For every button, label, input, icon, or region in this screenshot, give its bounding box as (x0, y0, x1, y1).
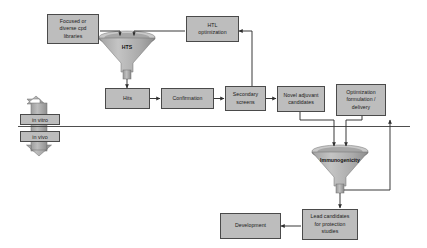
node-optimization-line-2: formulation / (346, 96, 375, 102)
node-optimization-formulation-delivery[interactable]: Optimization formulation / delivery (336, 84, 386, 116)
node-development-label: Development (221, 222, 280, 229)
node-lead-line-1: Lead candidates (311, 213, 350, 219)
flow-connectors (100, 31, 390, 226)
phase-tag-in-vitro: in vitro (20, 114, 60, 125)
immunogenicity-funnel-icon (312, 145, 368, 193)
node-lead-candidates[interactable]: Lead candidates for protection studies (302, 209, 358, 240)
hts-funnel-icon (99, 31, 155, 79)
node-htl-line-2: optimization (198, 29, 226, 35)
phase-tag-in-vivo: in vivo (20, 131, 60, 142)
phase-band-arrow (27, 96, 52, 156)
node-confirmation-label: Confirmation (162, 95, 213, 102)
node-secondary-screens[interactable]: Secondary screens (225, 86, 266, 111)
node-optimization-line-3: delivery (352, 104, 370, 110)
node-libraries-line-3: libraries (64, 33, 83, 39)
node-hits[interactable]: Hits (105, 88, 150, 109)
node-novel-adjuvant-candidates[interactable]: Novel adjuvant candidates (277, 86, 325, 112)
flow-secondary-to-htl (239, 31, 252, 86)
node-development[interactable]: Development (220, 213, 281, 239)
phase-tag-in-vivo-label: in vivo (32, 134, 47, 140)
flow-adjuvant-to-immunogenicity (300, 112, 334, 146)
diagram-canvas: Focused or diverse cpd libraries HTL opt… (0, 0, 427, 248)
node-libraries-line-1: Focused or (60, 18, 86, 24)
node-adjuvant-line-2: candidates (288, 99, 314, 105)
node-secondary-line-1: Secondary (233, 91, 258, 97)
node-htl-line-1: HTL (208, 22, 218, 28)
node-confirmation[interactable]: Confirmation (161, 88, 214, 109)
node-libraries[interactable]: Focused or diverse cpd libraries (47, 14, 99, 44)
node-adjuvant-line-1: Novel adjuvant (283, 92, 318, 98)
phase-tag-in-vitro-label: in vitro (32, 117, 48, 123)
node-libraries-line-2: diverse cpd (59, 25, 86, 31)
node-optimization-line-1: Optimization (346, 89, 375, 95)
node-secondary-line-2: screens (236, 99, 255, 105)
node-hits-label: Hits (106, 95, 149, 102)
node-lead-line-2: for protection (315, 221, 346, 227)
node-htl-optimization[interactable]: HTL optimization (186, 16, 239, 42)
flow-optimization-to-immunogenicity (346, 116, 362, 146)
node-lead-line-3: studies (322, 228, 339, 234)
